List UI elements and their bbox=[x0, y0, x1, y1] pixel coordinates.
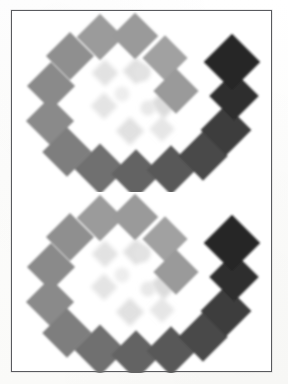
inner-diamond bbox=[91, 93, 118, 120]
inner-diamond bbox=[92, 241, 119, 268]
figure-panel-upper bbox=[12, 11, 273, 192]
panel-upper-canvas bbox=[12, 11, 273, 192]
inner-circles-lower bbox=[115, 246, 156, 297]
inner-circle bbox=[134, 246, 151, 263]
inner-diamond bbox=[116, 298, 144, 326]
inner-diamond bbox=[149, 297, 174, 322]
inner-diamond bbox=[91, 274, 118, 301]
inner-diamond bbox=[92, 60, 119, 87]
arc-diamond bbox=[204, 215, 261, 272]
panel-lower-canvas bbox=[12, 192, 273, 373]
inner-diamond bbox=[116, 117, 144, 145]
figure-border bbox=[11, 10, 272, 372]
inner-circle bbox=[115, 87, 130, 102]
inner-diamond bbox=[149, 116, 174, 141]
inner-circle bbox=[115, 268, 130, 283]
inner-circle bbox=[141, 101, 156, 116]
inner-circle bbox=[141, 282, 156, 297]
arc-diamond bbox=[204, 34, 261, 91]
figure-panel-lower bbox=[12, 192, 273, 373]
inner-circles-upper bbox=[115, 65, 156, 116]
inner-circle bbox=[134, 65, 151, 82]
page-root bbox=[0, 0, 288, 384]
